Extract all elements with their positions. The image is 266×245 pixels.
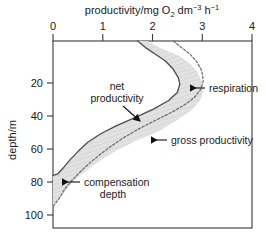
gross-productivity-label: gross productivity	[171, 134, 253, 146]
x-axis-title-unit-b: dm	[175, 4, 193, 16]
y-axis-title: depth/m	[6, 120, 18, 160]
x-axis-title-unit-a: mg O	[143, 4, 170, 16]
respiration-label: respiration	[209, 82, 258, 94]
chart-figure: 0 1 2 3 4 productivity/mg O2 dm−3 h−1 20…	[0, 0, 266, 245]
net-productivity-label-line2: productivity	[90, 92, 144, 104]
x-tick-labels: 0 1 2 3 4	[50, 20, 255, 32]
y-tick-label: 60	[31, 143, 43, 155]
y-tick-label: 80	[31, 176, 43, 188]
x-tick-label: 0	[50, 20, 56, 32]
x-tick-label: 4	[249, 20, 255, 32]
y-axis-ticks	[47, 83, 53, 215]
x-axis-title-unit-c: h	[201, 4, 210, 16]
compensation-depth-label-line1: compensation	[84, 176, 150, 188]
y-tick-label: 100	[25, 209, 43, 221]
x-axis-title-unit-b-sup: −3	[193, 3, 202, 12]
x-tick-label: 2	[149, 20, 155, 32]
y-tick-label: 40	[31, 110, 43, 122]
chart-svg: 0 1 2 3 4 productivity/mg O2 dm−3 h−1 20…	[0, 0, 266, 245]
x-tick-label: 1	[100, 20, 106, 32]
x-axis-title: productivity/mg O2 dm−3 h−1	[85, 3, 219, 19]
y-tick-label: 20	[31, 77, 43, 89]
net-productivity-label-line1: net	[110, 80, 125, 92]
x-tick-label: 3	[199, 20, 205, 32]
compensation-depth-label-line2: depth	[100, 188, 126, 200]
y-tick-labels: 20 40 60 80 100	[25, 77, 43, 221]
x-axis-ticks	[53, 34, 252, 41]
x-axis-title-lead: productivity	[85, 4, 141, 16]
x-axis-title-unit-c-sup: −1	[211, 3, 220, 12]
